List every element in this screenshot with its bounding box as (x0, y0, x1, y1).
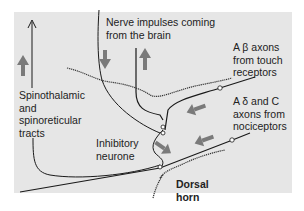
label-tracts: Spinothalamic and spinoreticular tracts (19, 89, 85, 139)
label-dorsal-horn-line1: Dorsal (176, 178, 209, 191)
a-delta-node (230, 138, 234, 142)
ascending-pathway (136, 48, 163, 120)
label-tracts-line4: tracts (19, 127, 85, 140)
label-a-delta-c-line1: A δ and C (233, 95, 287, 108)
label-nerve-impulses-line2: from the brain (106, 29, 215, 42)
label-dorsal-horn: Dorsal horn (176, 178, 209, 203)
ascending-arrow-tract-icon (17, 55, 29, 76)
label-a-beta-line1: A β axons (233, 41, 283, 54)
label-a-beta-line2: from touch (233, 54, 283, 67)
label-a-delta-c-line3: nociceptors (233, 120, 287, 133)
label-inhibitory-neurone: Inhibitory neurone (96, 137, 139, 162)
spinothalamic-tract-line (28, 20, 36, 88)
dorsal-horn-boundary-lower (153, 175, 163, 198)
label-tracts-line1: Spinothalamic (19, 89, 85, 102)
label-inhibitory-line2: neurone (96, 150, 139, 163)
a-beta-node (218, 86, 222, 90)
descending-arrow-icon (99, 50, 111, 69)
label-a-delta-c: A δ and C axons from nociceptors (233, 95, 287, 133)
label-a-delta-c-line2: axons from (233, 108, 287, 121)
label-tracts-line2: and (19, 102, 85, 115)
label-dorsal-horn-line2: horn (176, 191, 209, 204)
projection-synapse (158, 165, 162, 169)
label-a-beta-line3: receptors (233, 66, 283, 79)
label-inhibitory-line1: Inhibitory (96, 137, 139, 150)
a-beta-input-arrow-icon (185, 100, 208, 118)
ascending-arrow-brain-icon (139, 48, 151, 70)
label-a-beta: A β axons from touch receptors (233, 41, 283, 79)
label-tracts-line3: spinoreticular (19, 114, 85, 127)
inhibitory-synapse-lower (161, 131, 165, 135)
inhibitory-synapse-upper (161, 125, 165, 129)
label-nerve-impulses: Nerve impulses coming from the brain (106, 16, 215, 41)
label-nerve-impulses-line1: Nerve impulses coming (106, 16, 215, 29)
a-delta-input-arrow-icon (193, 131, 216, 149)
